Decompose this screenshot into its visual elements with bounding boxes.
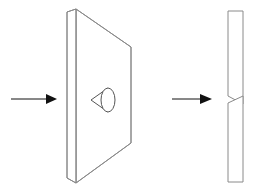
flow-arrow-left [11,94,57,104]
tapered-plate-isometric [67,9,131,183]
flow-arrow-right [172,94,212,104]
technical-drawing-canvas [0,0,257,193]
hole-mouth-ellipse [101,88,115,112]
flow-arrow-right-head [200,94,212,104]
plate-section-view [228,11,243,182]
section-lower-half [228,96,243,182]
flow-arrow-left-head [46,94,57,104]
plate-thickness-edge [67,9,76,183]
drawing-surface [0,0,257,193]
section-upper-half [228,11,243,104]
